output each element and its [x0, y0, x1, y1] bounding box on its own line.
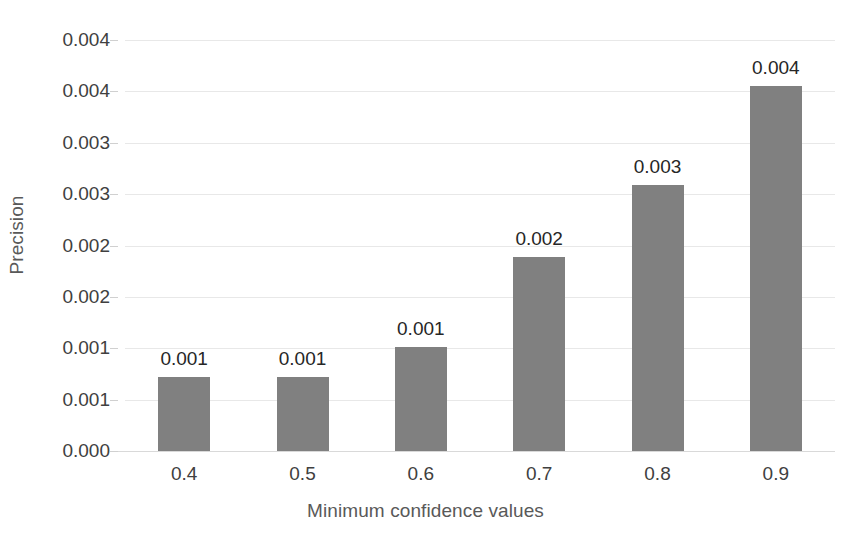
gridline — [125, 297, 835, 298]
y-axis-tick-label: 0.004 — [38, 80, 110, 102]
x-axis-line — [118, 451, 835, 452]
x-axis-tick-label: 0.5 — [289, 463, 315, 485]
x-axis-title-text: Minimum confidence values — [307, 500, 544, 521]
y-axis-title-text: Precision — [6, 195, 28, 274]
x-axis-title: Minimum confidence values — [0, 500, 851, 522]
gridline — [125, 348, 835, 349]
bar-value-label: 0.003 — [634, 156, 682, 178]
y-axis-tick-mark — [110, 40, 118, 41]
y-axis-tick-label: 0.000 — [38, 440, 110, 462]
gridline — [125, 400, 835, 401]
y-axis-tick-mark — [110, 246, 118, 247]
bar-value-label: 0.002 — [515, 228, 563, 250]
y-axis-tick-mark — [110, 348, 118, 349]
y-axis-tick-mark — [110, 297, 118, 298]
y-axis-tick-label: 0.003 — [38, 183, 110, 205]
y-axis-tick-label: 0.004 — [38, 29, 110, 51]
x-axis-tick-label: 0.6 — [408, 463, 434, 485]
bar — [277, 377, 329, 451]
bar-value-label: 0.004 — [752, 57, 800, 79]
y-axis-tick-mark — [110, 400, 118, 401]
gridline — [125, 246, 835, 247]
plot-area — [125, 40, 835, 451]
x-axis-tick-label: 0.8 — [644, 463, 670, 485]
gridline — [125, 143, 835, 144]
bar — [750, 86, 802, 451]
y-axis-tick-label: 0.002 — [38, 286, 110, 308]
y-axis-tick-mark — [110, 194, 118, 195]
bar-value-label: 0.001 — [397, 318, 445, 340]
y-axis-tick-mark — [110, 91, 118, 92]
y-axis-tick-label: 0.002 — [38, 235, 110, 257]
bar-value-label: 0.001 — [279, 348, 327, 370]
y-axis-tick-mark — [110, 143, 118, 144]
y-axis-tick-mark — [110, 451, 118, 452]
y-axis-tick-label: 0.001 — [38, 337, 110, 359]
x-axis-tick-label: 0.7 — [526, 463, 552, 485]
bar — [513, 257, 565, 451]
x-axis-tick-label: 0.9 — [763, 463, 789, 485]
y-axis-title: Precision — [0, 0, 34, 470]
gridline — [125, 91, 835, 92]
y-axis-tick-label: 0.001 — [38, 389, 110, 411]
x-axis-tick-label: 0.4 — [171, 463, 197, 485]
y-axis-tick-labels: 0.0000.0010.0010.0020.0020.0030.0030.004… — [34, 0, 110, 543]
bar — [632, 185, 684, 451]
gridline — [125, 40, 835, 41]
bar-value-label: 0.001 — [160, 348, 208, 370]
bar-chart: Precision 0.0000.0010.0010.0020.0020.003… — [0, 0, 851, 543]
bar — [395, 347, 447, 451]
gridline — [125, 194, 835, 195]
y-axis-tick-label: 0.003 — [38, 132, 110, 154]
bar — [158, 377, 210, 451]
